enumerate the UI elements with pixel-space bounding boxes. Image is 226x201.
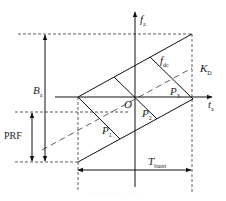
ta-axis-label: ta (208, 99, 214, 112)
figure-caption: · · · · · · · · · · · · (0, 190, 226, 198)
origin-label: O (124, 99, 132, 110)
prf-label: PRF (4, 131, 22, 141)
p1-label: P1 (102, 125, 112, 138)
ba-label: Ba (33, 85, 42, 98)
axes (55, 12, 212, 187)
kd-label: KD (200, 63, 212, 76)
fdc-label: fdc (160, 55, 169, 68)
p2-label: P2 (142, 108, 152, 121)
short-edge-1 (78, 97, 120, 139)
tburst-label: Tburst (148, 156, 166, 169)
fa-axis-label: fa (140, 14, 146, 27)
p3-label: P3 (170, 86, 180, 99)
diagram-canvas (0, 0, 226, 201)
